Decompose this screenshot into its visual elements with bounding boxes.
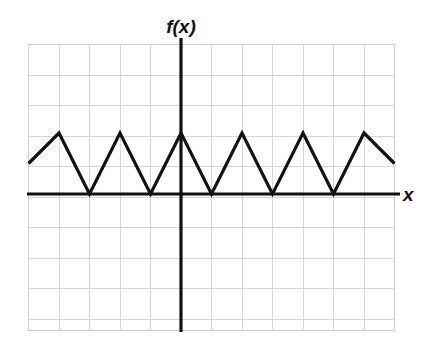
function-graph-figure: f(x) x bbox=[0, 0, 426, 360]
y-axis-label: f(x) bbox=[166, 16, 196, 37]
x-axis-label: x bbox=[402, 184, 415, 205]
figure-background bbox=[0, 0, 426, 360]
